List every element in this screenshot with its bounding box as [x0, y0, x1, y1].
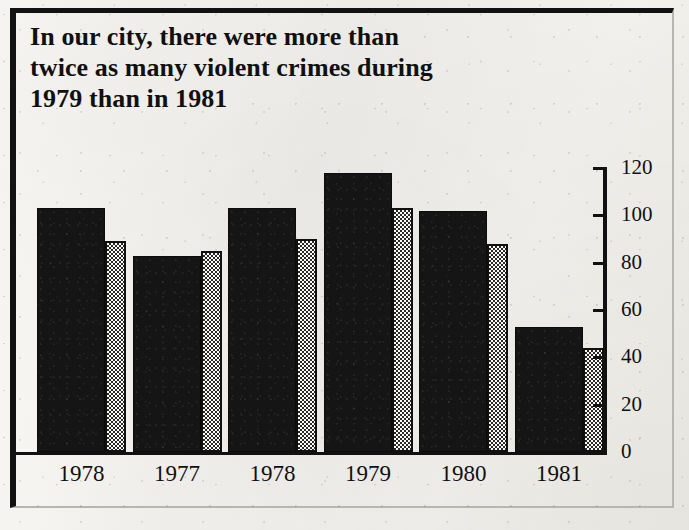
x-axis-tick-label: 1977: [123, 462, 232, 485]
y-axis-tick-label: 0: [621, 441, 632, 462]
x-axis-tick-label: 1980: [409, 462, 518, 485]
x-axis-tick-label: 1978: [218, 462, 327, 485]
y-axis-tick-label: 60: [621, 299, 642, 320]
y-axis-tick-label: 40: [621, 346, 642, 367]
headline-line-3: 1979 than in 1981: [30, 84, 630, 115]
bar-solid: [515, 327, 583, 452]
bar-solid: [324, 173, 392, 452]
scanned-page: In our city, there were more than twice …: [0, 0, 689, 530]
x-axis-tick-label: 1979: [314, 462, 423, 485]
page-title: In our city, there were more than twice …: [30, 22, 630, 115]
y-axis-tick-label: 100: [621, 204, 653, 225]
headline-line-1: In our city, there were more than: [30, 22, 630, 53]
x-axis-tick-label: 1978: [27, 462, 136, 485]
y-axis-tick: [593, 404, 607, 407]
bar-stippled: [296, 239, 317, 452]
y-axis-tick: [593, 262, 607, 265]
y-axis-tick: [593, 167, 607, 170]
y-axis-tick-label: 20: [621, 394, 642, 415]
bar-stippled: [201, 251, 222, 452]
y-axis-tick: [593, 451, 607, 454]
bar-stippled: [583, 348, 604, 452]
bar-solid: [37, 208, 105, 452]
bar-stippled: [392, 208, 413, 452]
y-axis-tick: [593, 214, 607, 217]
bar-solid: [419, 211, 487, 452]
bar-stippled: [487, 244, 508, 452]
y-axis-tick: [593, 356, 607, 359]
y-axis-tick-label: 80: [621, 252, 642, 273]
bar-solid: [133, 256, 201, 452]
bar-solid: [228, 208, 296, 452]
x-axis-line: [15, 452, 603, 455]
y-axis-tick-label: 120: [621, 157, 653, 178]
x-axis-tick-label: 1981: [505, 462, 614, 485]
bar-stippled: [105, 241, 126, 452]
y-axis-tick: [593, 309, 607, 312]
headline-line-2: twice as many violent crimes during: [30, 53, 630, 84]
